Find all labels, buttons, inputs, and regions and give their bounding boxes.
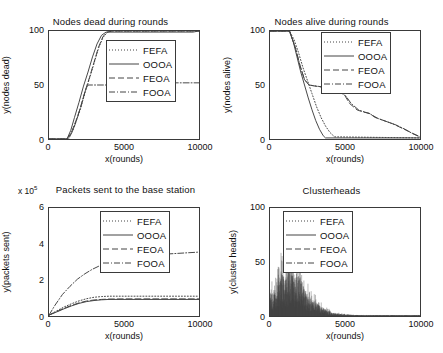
legend-item: FOOA (286, 256, 349, 270)
legend-label: FEFA (143, 45, 168, 56)
legend-line-sample-dotted (109, 44, 139, 56)
xtick-label: 10000 (187, 319, 212, 329)
ytick-label: 0 (39, 135, 44, 145)
legend-label: OOOA (137, 230, 166, 241)
legend-label: FEFA (358, 37, 383, 48)
legend-item: OOOA (324, 49, 387, 63)
legend-item: OOOA (109, 57, 172, 71)
legend-label: FOOA (143, 87, 171, 98)
yaxis-label-nodes-dead: y(nodes dead) (1, 56, 11, 114)
xaxis-label-nodes-dead: x(rounds) (48, 154, 200, 164)
xaxis-label-clusterheads: x(rounds) (269, 331, 421, 341)
legend-item: OOOA (103, 228, 166, 242)
legend-item: OOOA (286, 228, 349, 242)
legend-line-sample-dashdot (286, 257, 316, 269)
legend-label: FEOA (320, 244, 347, 255)
subplot-clusterheads: Clusterheads 0 50 100 0 5000 10000 x(rou… (221, 177, 442, 353)
legend-line-sample-solid (109, 58, 139, 70)
legend-line-sample-dashed (109, 72, 139, 84)
legend-nodes-alive: FEFA OOOA FEOA FOOA (321, 32, 391, 94)
ytick-label: 100 (250, 202, 265, 212)
ytick-label: 4 (39, 239, 44, 249)
legend-label: OOOA (320, 230, 349, 241)
xtick-label: 0 (266, 319, 271, 329)
legend-line-sample-dotted (103, 215, 133, 227)
legend-item: FEFA (103, 214, 166, 228)
legend-label: FEOA (358, 65, 385, 76)
legend-line-sample-dashdot (324, 78, 354, 90)
xtick-label: 0 (45, 142, 50, 152)
ytick-label: 0 (260, 135, 265, 145)
plot-title-clusterheads: Clusterheads (221, 185, 442, 196)
xtick-label: 10000 (187, 142, 212, 152)
legend-item: FEFA (109, 43, 172, 57)
legend-line-sample-dashed (286, 243, 316, 255)
legend-label: FEFA (320, 216, 345, 227)
legend-item: FEFA (286, 214, 349, 228)
legend-item: FEFA (324, 35, 387, 49)
yaxis-label-packets-sent: y(packets sent) (1, 231, 11, 292)
legend-label: FEOA (143, 73, 170, 84)
legend-item: FEOA (324, 63, 387, 77)
ytick-label: 0 (260, 312, 265, 322)
xtick-label: 5000 (114, 142, 134, 152)
legend-item: FOOA (324, 77, 387, 91)
legend-line-sample-dotted (286, 215, 316, 227)
legend-label: OOOA (358, 51, 387, 62)
matlab-figure: Nodes dead during rounds 0 50 100 0 5000… (0, 0, 443, 353)
subplot-packets-sent: x 105 Packets sent to the base station 0… (0, 177, 221, 353)
legend-label: FEOA (137, 244, 164, 255)
xaxis-label-packets-sent: x(rounds) (48, 331, 200, 341)
ytick-label: 100 (250, 25, 265, 35)
legend-item: FOOA (109, 85, 172, 99)
legend-line-sample-dashdot (103, 257, 133, 269)
xtick-label: 10000 (408, 319, 433, 329)
xtick-label: 10000 (408, 142, 433, 152)
ytick-label: 100 (29, 25, 44, 35)
legend-item: FEOA (109, 71, 172, 85)
legend-item: FEOA (286, 242, 349, 256)
ytick-label: 50 (255, 80, 265, 90)
ytick-label: 6 (39, 202, 44, 212)
legend-line-sample-solid (324, 50, 354, 62)
legend-line-sample-solid (103, 229, 133, 241)
legend-line-sample-dashed (324, 64, 354, 76)
legend-packets-sent: FEFA OOOA FEOA FOOA (100, 211, 170, 273)
legend-line-sample-dashed (103, 243, 133, 255)
plot-title-packets-sent: Packets sent to the base station (30, 184, 221, 195)
legend-nodes-dead: FEFA OOOA FEOA FOOA (106, 40, 176, 102)
ytick-label: 2 (39, 275, 44, 285)
ytick-label: 0 (39, 312, 44, 322)
legend-item: FEOA (103, 242, 166, 256)
subplot-nodes-alive: Nodes alive during rounds 0 50 100 0 500… (221, 0, 442, 176)
ytick-label: 50 (255, 257, 265, 267)
xaxis-label-nodes-alive: x(rounds) (269, 154, 421, 164)
legend-item: FOOA (103, 256, 166, 270)
legend-line-sample-solid (286, 229, 316, 241)
yaxis-label-nodes-alive: y(nodes alive) (222, 57, 232, 113)
xtick-label: 5000 (114, 319, 134, 329)
xtick-label: 5000 (335, 319, 355, 329)
legend-label: FOOA (137, 258, 165, 269)
legend-line-sample-dotted (324, 36, 354, 48)
ytick-label: 50 (34, 80, 44, 90)
xtick-label: 0 (266, 142, 271, 152)
subplot-nodes-dead: Nodes dead during rounds 0 50 100 0 5000… (0, 0, 221, 176)
legend-label: OOOA (143, 59, 172, 70)
legend-label: FOOA (358, 79, 386, 90)
legend-label: FOOA (320, 258, 348, 269)
xtick-label: 0 (45, 319, 50, 329)
legend-clusterheads: FEFA OOOA FEOA FOOA (283, 211, 353, 273)
xtick-label: 5000 (335, 142, 355, 152)
legend-label: FEFA (137, 216, 162, 227)
yaxis-label-clusterheads: y(cluster heads) (228, 230, 238, 294)
legend-line-sample-dashdot (109, 86, 139, 98)
